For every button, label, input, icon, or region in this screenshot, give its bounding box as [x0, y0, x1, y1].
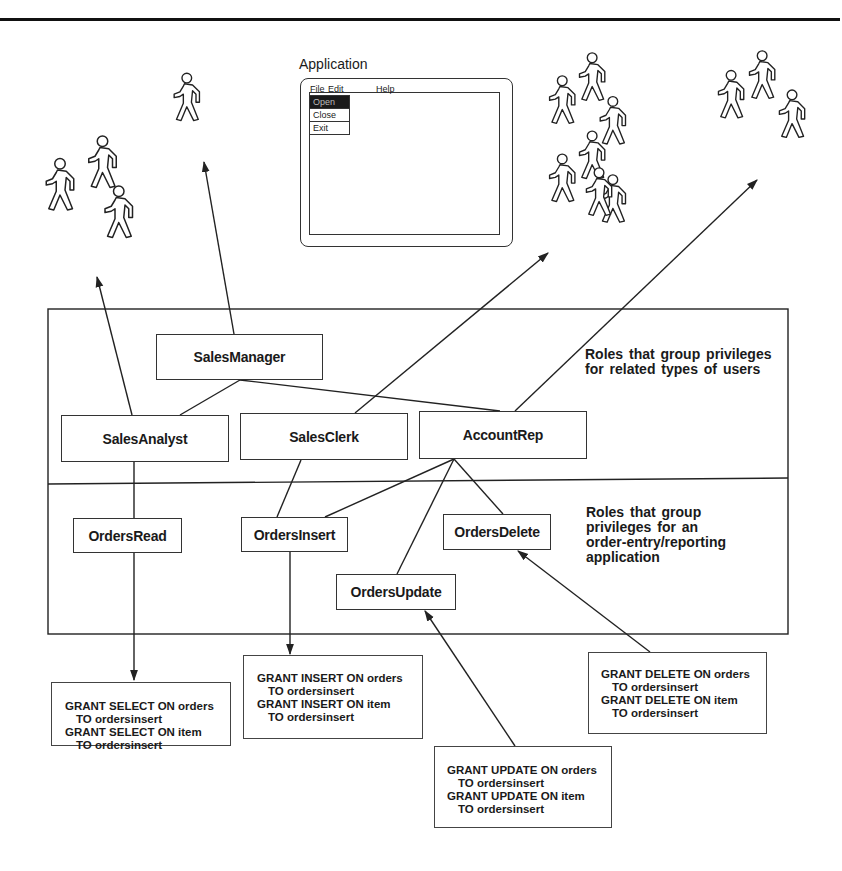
people-icon: [45, 135, 155, 260]
role-sales-analyst: SalesAnalyst: [61, 415, 229, 462]
grant-line: TO ordersinsert: [447, 803, 611, 816]
note-line: privileges for an: [586, 520, 726, 535]
app-roles-note: Roles that group privileges for an order…: [586, 505, 726, 565]
grant-update-box: GRANT UPDATE ON orders TO ordersinsert G…: [434, 746, 612, 828]
menu-help[interactable]: Help: [376, 84, 395, 94]
grant-line: TO ordersinsert: [65, 713, 230, 726]
role-orders-update: OrdersUpdate: [336, 574, 456, 610]
menu-file[interactable]: File: [310, 84, 325, 94]
grant-line: TO ordersinsert: [65, 739, 230, 752]
person-icon: [173, 70, 213, 140]
people-icon: [715, 50, 825, 175]
role-orders-delete: OrdersDelete: [443, 514, 551, 550]
grant-line: TO ordersinsert: [257, 711, 422, 724]
grant-line: GRANT SELECT ON orders: [65, 700, 230, 713]
top-rule: [0, 18, 840, 21]
grant-line: GRANT INSERT ON orders: [257, 672, 422, 685]
user-roles-note: Roles that group privileges for related …: [585, 347, 771, 377]
grant-insert-box: GRANT INSERT ON orders TO ordersinsert G…: [243, 655, 423, 739]
note-line: application: [586, 550, 726, 565]
role-orders-read: OrdersRead: [73, 518, 182, 553]
analysts-group: [45, 135, 155, 260]
role-sales-manager: SalesManager: [156, 334, 323, 380]
grant-line: TO ordersinsert: [601, 681, 766, 694]
manager: [173, 70, 213, 140]
grant-select-box: GRANT SELECT ON orders TO ordersinsert G…: [51, 682, 231, 746]
menu-item-exit[interactable]: Exit: [310, 122, 349, 135]
grant-line: GRANT INSERT ON item: [257, 698, 422, 711]
file-menu-dropdown: Open Close Exit: [309, 95, 350, 135]
grant-delete-box: GRANT DELETE ON orders TO ordersinsert G…: [588, 652, 767, 734]
grant-line: TO ordersinsert: [257, 685, 422, 698]
role-account-rep: AccountRep: [419, 411, 587, 459]
menu-edit[interactable]: Edit: [328, 84, 344, 94]
note-line: Roles that group: [586, 505, 726, 520]
grant-line: TO ordersinsert: [601, 707, 766, 720]
role-orders-insert: OrdersInsert: [241, 517, 348, 552]
note-line: for related types of users: [585, 362, 771, 377]
role-sales-clerk: SalesClerk: [240, 413, 408, 460]
grant-line: GRANT UPDATE ON item: [447, 790, 611, 803]
grant-line: GRANT DELETE ON orders: [601, 668, 766, 681]
people-icon: [545, 52, 645, 262]
note-line: Roles that group privileges: [585, 347, 771, 362]
grant-line: GRANT SELECT ON item: [65, 726, 230, 739]
account-reps-group: [715, 50, 825, 175]
menu-item-open[interactable]: Open: [310, 96, 349, 109]
grant-line: TO ordersinsert: [447, 777, 611, 790]
note-line: order-entry/reporting: [586, 535, 726, 550]
grant-line: GRANT DELETE ON item: [601, 694, 766, 707]
application-title: Application: [299, 56, 368, 72]
clerks-group: [545, 52, 645, 262]
grant-line: GRANT UPDATE ON orders: [447, 764, 611, 777]
menu-item-close[interactable]: Close: [310, 109, 349, 122]
